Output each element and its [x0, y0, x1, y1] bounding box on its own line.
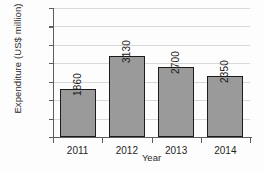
x-axis-title: Year	[53, 152, 250, 163]
bar	[60, 89, 96, 137]
x-tick-mark	[201, 138, 202, 143]
bar-value-label: 2700	[170, 51, 181, 74]
y-tick-mark	[49, 82, 54, 83]
y-tick-mark	[49, 63, 54, 64]
x-tick-mark	[53, 138, 54, 143]
x-tick-mark	[250, 138, 251, 143]
bar	[158, 67, 194, 137]
y-tick-mark	[49, 100, 54, 101]
bar-value-label: 2350	[219, 60, 230, 83]
bar-value-label: 1860	[72, 73, 83, 96]
y-tick-mark	[49, 8, 54, 9]
y-tick-mark	[49, 26, 54, 27]
y-axis-title: Expenditure (US$ million)	[12, 0, 23, 123]
x-tick-mark	[152, 138, 153, 143]
bar	[109, 56, 145, 137]
bar	[207, 76, 243, 137]
bar-value-label: 3130	[121, 39, 132, 62]
gridline	[53, 8, 250, 9]
gridline	[53, 45, 250, 46]
y-tick-mark	[49, 45, 54, 46]
plot-area: 1860313027002350 00.511.522.533.5 201120…	[53, 8, 250, 137]
gridline	[53, 26, 250, 27]
x-tick-mark	[102, 138, 103, 143]
y-tick-mark	[49, 119, 54, 120]
bar-chart-figure: Expenditure (US$ million) 18603130270023…	[0, 0, 264, 172]
